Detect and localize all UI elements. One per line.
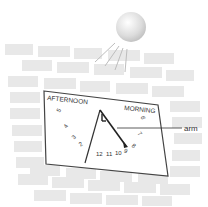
hour-12: 12: [96, 151, 103, 157]
hour-10: 10: [115, 150, 122, 156]
hour-11: 11: [106, 151, 113, 157]
arm-label: arm: [184, 124, 198, 133]
sundial-diagram: AFTERNOON MORNING 5 4 3 2 12 11 10 9 8 7…: [0, 0, 208, 207]
dial-face: [44, 91, 168, 176]
sun-icon: [116, 12, 146, 42]
